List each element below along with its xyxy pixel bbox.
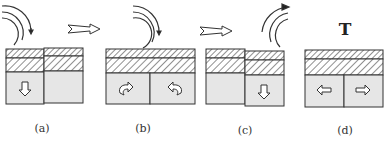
joined-block [106, 49, 195, 104]
panel-label-d: (d) [337, 124, 353, 137]
panel-d: T (d) [305, 19, 383, 137]
block-right [245, 51, 284, 106]
transition-arrow-icon [200, 26, 232, 36]
block-right [44, 48, 83, 103]
block-left [6, 49, 44, 104]
panel-b: (b) [106, 6, 195, 135]
panel-c: (c) [206, 4, 289, 137]
panel-label-c: (c) [238, 124, 253, 137]
process-diagram: (a) (b) [0, 0, 387, 155]
rotating-tool-icon [133, 6, 161, 48]
panel-label-b: (b) [135, 122, 151, 135]
joined-block [305, 50, 383, 107]
marker-t: T [339, 19, 352, 39]
rotating-tool-icon [262, 4, 289, 47]
panel-label-a: (a) [34, 122, 49, 135]
transition-arrow-icon [68, 24, 100, 34]
rotating-tool-icon [2, 6, 33, 45]
block-left [206, 49, 245, 104]
